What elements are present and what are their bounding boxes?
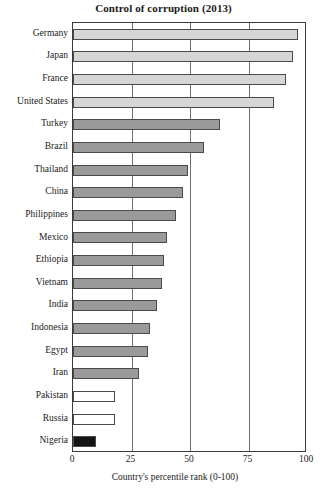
y-label-russia: Russia xyxy=(0,413,68,424)
y-label-mexico: Mexico xyxy=(0,232,68,243)
y-label-thailand: Thailand xyxy=(0,164,68,175)
bar-row xyxy=(73,317,305,340)
bar-row xyxy=(73,46,305,69)
chart-title: Control of corruption (2013) xyxy=(0,2,327,14)
bar-row xyxy=(73,91,305,114)
bar-row xyxy=(73,204,305,227)
bar-france[interactable] xyxy=(73,74,286,85)
bar-row xyxy=(73,385,305,408)
bar-philippines[interactable] xyxy=(73,210,176,221)
y-label-ethiopia: Ethiopia xyxy=(0,254,68,265)
x-tick-50: 50 xyxy=(184,454,194,464)
bar-row xyxy=(73,362,305,385)
bar-japan[interactable] xyxy=(73,51,293,62)
y-label-india: India xyxy=(0,299,68,310)
bar-row xyxy=(73,23,305,46)
x-tick-0: 0 xyxy=(70,454,75,464)
bar-egypt[interactable] xyxy=(73,346,148,357)
y-label-pakistan: Pakistan xyxy=(0,390,68,401)
y-label-iran: Iran xyxy=(0,367,68,378)
bar-china[interactable] xyxy=(73,187,183,198)
x-axis-title: Country's percentile rank (0-100) xyxy=(40,472,310,482)
y-label-vietnam: Vietnam xyxy=(0,277,68,288)
y-label-brazil: Brazil xyxy=(0,141,68,152)
x-tick-100: 100 xyxy=(299,454,313,464)
x-tick-75: 75 xyxy=(243,454,253,464)
bar-ethiopia[interactable] xyxy=(73,255,164,266)
bar-row xyxy=(73,340,305,363)
bar-germany[interactable] xyxy=(73,29,298,40)
bar-mexico[interactable] xyxy=(73,232,167,243)
bar-united-states[interactable] xyxy=(73,97,274,108)
y-axis-category-labels: GermanyJapanFranceUnited StatesTurkeyBra… xyxy=(0,22,68,452)
bar-indonesia[interactable] xyxy=(73,323,150,334)
bar-row xyxy=(73,68,305,91)
bar-series xyxy=(73,23,305,451)
bar-row xyxy=(73,272,305,295)
bar-brazil[interactable] xyxy=(73,142,204,153)
y-label-indonesia: Indonesia xyxy=(0,322,68,333)
y-label-japan: Japan xyxy=(0,50,68,61)
bar-nigeria[interactable] xyxy=(73,436,96,447)
bar-row xyxy=(73,249,305,272)
y-label-egypt: Egypt xyxy=(0,345,68,356)
bar-row xyxy=(73,136,305,159)
bar-pakistan[interactable] xyxy=(73,391,115,402)
x-tick-25: 25 xyxy=(126,454,136,464)
y-label-philippines: Philippines xyxy=(0,209,68,220)
bar-row xyxy=(73,227,305,250)
bar-turkey[interactable] xyxy=(73,119,220,130)
bar-thailand[interactable] xyxy=(73,165,188,176)
bar-russia[interactable] xyxy=(73,414,115,425)
y-label-france: France xyxy=(0,73,68,84)
bar-row xyxy=(73,430,305,453)
bar-row xyxy=(73,159,305,182)
x-axis-tick-labels: 0255075100 xyxy=(0,454,327,470)
bar-iran[interactable] xyxy=(73,368,139,379)
bar-row xyxy=(73,408,305,431)
bar-vietnam[interactable] xyxy=(73,278,162,289)
y-label-nigeria: Nigeria xyxy=(0,435,68,446)
y-label-turkey: Turkey xyxy=(0,118,68,129)
y-label-united-states: United States xyxy=(0,96,68,107)
chart-container: Control of corruption (2013) GermanyJapa… xyxy=(0,0,327,496)
bar-row xyxy=(73,181,305,204)
bar-india[interactable] xyxy=(73,300,157,311)
y-label-china: China xyxy=(0,186,68,197)
y-label-germany: Germany xyxy=(0,28,68,39)
bar-row xyxy=(73,295,305,318)
bar-row xyxy=(73,114,305,137)
plot-area xyxy=(72,22,306,452)
